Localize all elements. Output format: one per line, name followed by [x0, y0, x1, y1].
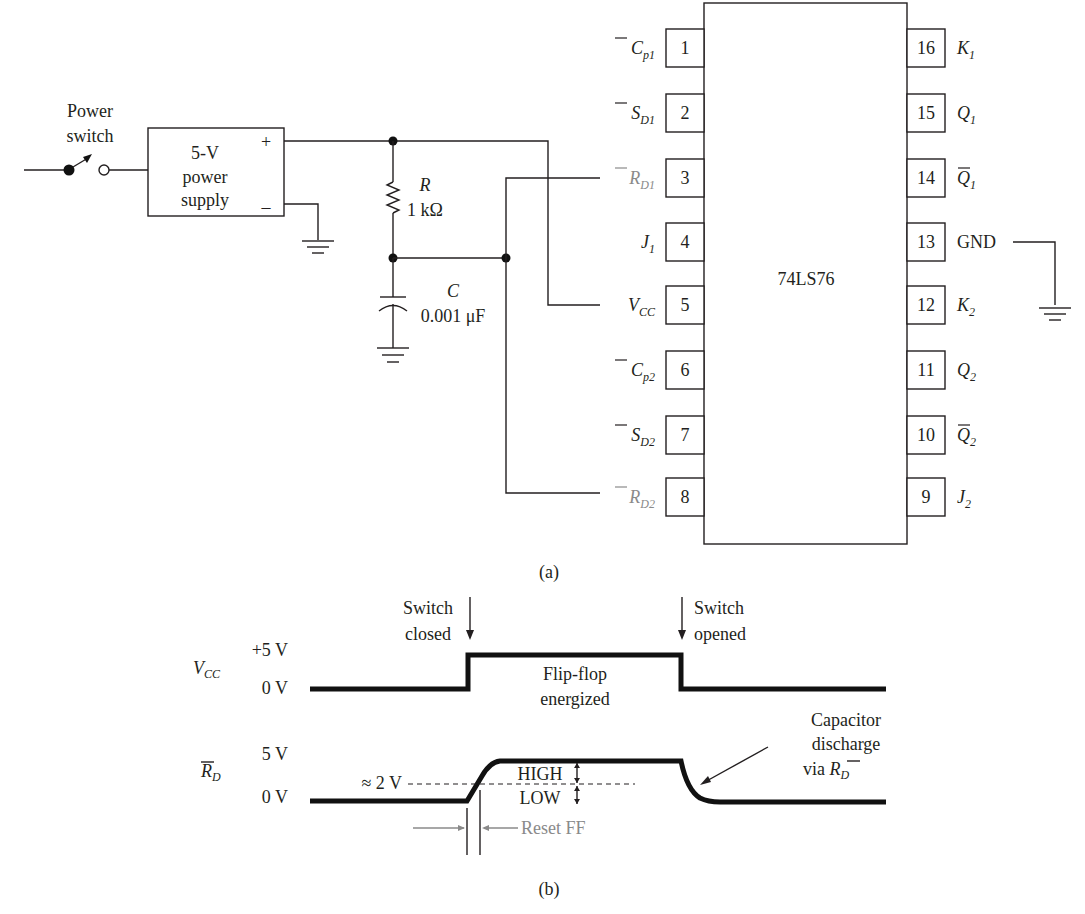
pin-number: 1	[681, 38, 690, 58]
switch-closed-line2: closed	[405, 624, 451, 644]
capacitor: C 0.001 μF	[377, 258, 485, 362]
left-pin-column: 1Cp12SD13RD14J15VCC6Cp27SD28RD2	[615, 29, 704, 516]
pin-label: K2	[956, 295, 975, 319]
low-margin-arrow-icon	[574, 786, 580, 804]
rd-high-level: 5 V	[262, 744, 288, 764]
right-pin-column: 16K115Q114Q113GND12K211Q210Q29J2	[907, 29, 996, 516]
pin-label: SD1	[631, 103, 655, 127]
rd-signal-label: RD	[200, 761, 221, 784]
pin-number: 5	[681, 295, 690, 315]
capacitor-value: 0.001 μF	[421, 306, 486, 326]
pin-8: 8RD2	[615, 478, 704, 516]
pin-14: 14Q1	[907, 159, 976, 197]
pin-label: RD1	[628, 168, 655, 192]
pin-number: 14	[917, 168, 935, 188]
flip-flop-power-on-reset-figure: Power switch 5-V power supply + –	[0, 0, 1085, 914]
capacitor-discharge-line1: Capacitor	[811, 710, 881, 730]
pin-12: 12K2	[907, 286, 975, 324]
timing-diagram: VCC +5 V 0 V Switch closed Switch opened…	[193, 597, 886, 900]
pin-number: 4	[681, 232, 690, 252]
pin-1: 1Cp1	[615, 29, 704, 67]
arrow-icon	[700, 776, 711, 785]
pin-13: 13GND	[907, 223, 996, 261]
resistor: R 1 kΩ	[387, 141, 443, 258]
pin-number: 15	[917, 103, 935, 123]
pin-label: J1	[641, 232, 655, 256]
pin-number: 2	[681, 103, 690, 123]
high-label: HIGH	[518, 764, 563, 784]
switch-opened-line2: opened	[694, 624, 746, 644]
pin-number: 8	[681, 487, 690, 507]
pin-label: GND	[957, 232, 996, 252]
low-label: LOW	[520, 788, 561, 808]
pin-label: VCC	[628, 295, 656, 319]
power-supply: 5-V power supply + –	[148, 128, 334, 253]
pin-number: 9	[922, 487, 931, 507]
pin-label: K1	[956, 38, 975, 62]
pin-5: 5VCC	[628, 286, 704, 324]
resistor-value: 1 kΩ	[407, 200, 443, 220]
pin-label: Q1	[957, 103, 976, 127]
pin-16: 16K1	[907, 29, 975, 67]
pin-number: 6	[681, 360, 690, 380]
pin-label: J2	[957, 487, 971, 511]
ground-icon	[302, 241, 334, 253]
arrow-down-icon	[466, 630, 474, 640]
supply-label-line2: power	[183, 167, 228, 187]
pin-3: 3RD1	[615, 159, 704, 197]
vcc-high-level: +5 V	[252, 640, 288, 660]
discharge-arrow	[703, 747, 768, 783]
pin-15: 15Q1	[907, 94, 976, 132]
pin-number: 16	[917, 38, 935, 58]
switch-arrow-icon	[83, 154, 92, 163]
ground-icon	[1039, 308, 1071, 320]
pin-11: 11Q2	[907, 351, 976, 389]
reset-ff-label: Reset FF	[521, 818, 586, 838]
circuit-schematic: Power switch 5-V power supply + –	[24, 3, 1071, 583]
capacitor-discharge-line3: via RD	[803, 759, 850, 782]
vcc-low-level: 0 V	[262, 678, 288, 698]
pin-number: 12	[917, 295, 935, 315]
flipflop-energized-line1: Flip-flop	[543, 664, 607, 684]
ground-icon	[377, 348, 409, 362]
switch-pivot-icon	[64, 165, 75, 176]
pin-label: SD2	[631, 425, 655, 449]
pin-number: 10	[917, 425, 935, 445]
rd-low-level: 0 V	[262, 787, 288, 807]
power-switch-label-line2: switch	[67, 126, 114, 146]
pin-number: 13	[917, 232, 935, 252]
pin-7: 7SD2	[615, 416, 704, 454]
pin-label: Q2	[957, 360, 976, 384]
vcc-wire	[284, 141, 600, 305]
caption-a: (a)	[539, 562, 559, 583]
gnd-wire	[1013, 242, 1055, 305]
rd2-wire	[506, 258, 600, 493]
pin-label: Cp1	[631, 38, 655, 62]
threshold-label: ≈ 2 V	[361, 773, 402, 793]
capacitor-discharge-line2: discharge	[812, 734, 881, 754]
switch-contact-icon	[99, 165, 109, 175]
vcc-signal-label: VCC	[193, 658, 221, 681]
pin-9: 9J2	[907, 478, 971, 516]
pin-2: 2SD1	[615, 94, 704, 132]
switch-closed-line1: Switch	[403, 598, 453, 618]
caption-b: (b)	[539, 879, 560, 900]
power-switch-label-line1: Power	[67, 101, 113, 121]
pin-number: 3	[681, 168, 690, 188]
high-margin-arrow-icon	[574, 763, 580, 783]
pin-number: 7	[681, 425, 690, 445]
pin-10: 10Q2	[907, 416, 976, 454]
switch-opened-line1: Switch	[694, 598, 744, 618]
resistor-name: R	[419, 175, 431, 195]
pin-label: Cp2	[631, 360, 655, 384]
supply-label-line1: 5-V	[191, 143, 219, 163]
pin-number: 11	[917, 360, 934, 380]
pin-label: Q2	[957, 425, 976, 449]
supply-minus: –	[261, 197, 272, 217]
pin-4: 4J1	[641, 223, 704, 261]
supply-label-line3: supply	[181, 190, 229, 210]
rd1-wire	[506, 178, 600, 258]
pin-label: RD2	[628, 487, 655, 511]
arrow-right-icon	[458, 825, 465, 831]
arrow-left-icon	[482, 825, 489, 831]
